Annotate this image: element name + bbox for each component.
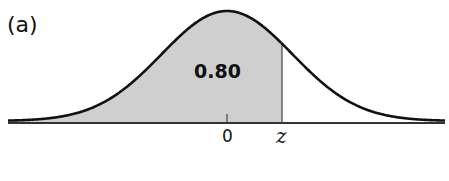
shaded-area-left-of-z — [8, 11, 282, 123]
panel-label: (a) — [7, 12, 38, 37]
normal-distribution-figure: (a) 0.80 0 z — [0, 0, 449, 181]
tick-label-zero: 0 — [222, 126, 233, 146]
shaded-area-value: 0.80 — [194, 60, 241, 82]
tick-label-z: z — [276, 124, 287, 148]
normal-curve-plot — [0, 0, 449, 181]
